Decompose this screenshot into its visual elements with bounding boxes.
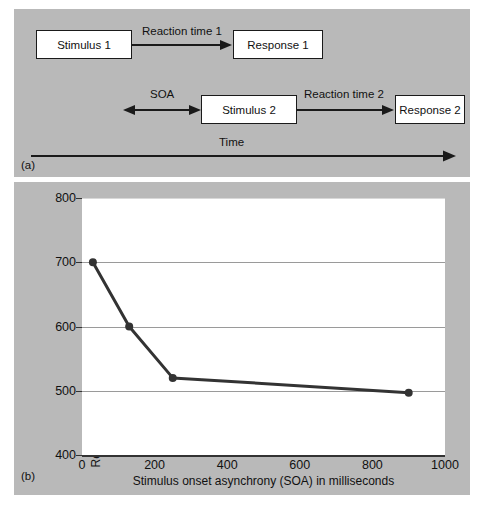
- box-response-1-label: Response 1: [247, 39, 308, 51]
- y-tick-label-500: 500: [34, 384, 76, 398]
- data-point: [89, 258, 97, 266]
- data-point: [405, 389, 413, 397]
- label-time: Time: [219, 136, 244, 148]
- plot-area: [82, 198, 445, 455]
- arrow-time-axis: [31, 149, 456, 163]
- data-series-line: [82, 198, 445, 455]
- panel-a-diagram: Stimulus 1 Reaction time 1 Response 1 SO…: [14, 9, 470, 177]
- y-tick-label-600: 600: [34, 320, 76, 334]
- label-soa: SOA: [150, 88, 174, 100]
- box-stimulus-2: Stimulus 2: [201, 95, 297, 124]
- x-tick-label-600: 600: [289, 458, 310, 472]
- label-reaction-time-1: Reaction time 1: [142, 25, 222, 37]
- series-line-0: [93, 262, 409, 392]
- arrow-soa-double: [123, 103, 201, 117]
- panel-b-chart: Reaction time for second stimulus (milli…: [14, 182, 470, 495]
- label-reaction-time-2: Reaction time 2: [304, 88, 384, 100]
- data-point: [169, 374, 177, 382]
- box-stimulus-2-label: Stimulus 2: [222, 104, 276, 116]
- x-tick-label-0: 0: [79, 458, 86, 472]
- y-tick-label-800: 800: [34, 191, 76, 205]
- box-response-2-label: Response 2: [399, 104, 460, 116]
- arrow-reaction-time-2: [297, 103, 394, 117]
- panel-a-tag: (a): [21, 159, 35, 171]
- box-stimulus-1-label: Stimulus 1: [57, 39, 111, 51]
- x-tick-label-400: 400: [217, 458, 238, 472]
- data-point: [125, 323, 133, 331]
- box-response-2: Response 2: [395, 95, 465, 124]
- x-tick-label-800: 800: [362, 458, 383, 472]
- x-axis-label: Stimulus onset asynchrony (SOA) in milli…: [82, 474, 445, 488]
- box-stimulus-1: Stimulus 1: [36, 30, 132, 59]
- y-tick-label-400: 400: [34, 448, 76, 462]
- arrow-reaction-time-1: [132, 38, 232, 52]
- box-response-1: Response 1: [233, 30, 323, 59]
- x-tick-label-200: 200: [144, 458, 165, 472]
- panel-b-tag: (b): [21, 470, 35, 482]
- y-tick-label-700: 700: [34, 255, 76, 269]
- x-tick-label-1000: 1000: [431, 458, 459, 472]
- x-axis-line: [82, 455, 445, 457]
